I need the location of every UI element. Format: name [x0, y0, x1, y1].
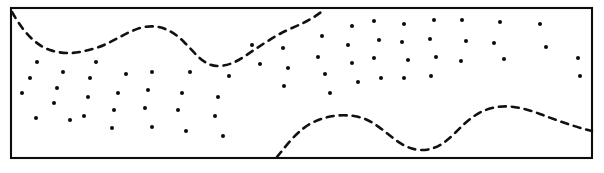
stipple-dot: [400, 40, 404, 44]
stipple-dot: [52, 101, 56, 105]
stipple-dot: [180, 91, 184, 95]
stipple-dot: [213, 114, 217, 118]
stipple-dot: [116, 91, 120, 95]
stipple-dot: [428, 37, 432, 41]
stipple-dot: [124, 72, 128, 76]
stipple-dot: [55, 86, 59, 90]
stipple-dot: [323, 72, 327, 76]
stipple-dot: [350, 24, 354, 28]
stipple-dot: [35, 60, 39, 64]
stipple-dot: [356, 80, 360, 84]
stipple-dot: [538, 22, 542, 26]
figure-canvas: [0, 0, 604, 173]
stipple-dot: [184, 129, 188, 133]
stipple-dot: [492, 41, 496, 45]
stipple-dot: [146, 88, 150, 92]
stipple-dot: [282, 84, 286, 88]
stipple-dot: [188, 70, 192, 74]
stipple-dot: [34, 116, 38, 120]
stipple-dot: [434, 55, 438, 59]
stipple-dot: [316, 55, 320, 59]
stipple-dot: [406, 58, 410, 62]
stipple-dot: [86, 95, 90, 99]
figure-background: [0, 0, 604, 173]
stipple-dot: [150, 125, 154, 129]
stipple-dot: [82, 114, 86, 118]
stipple-dot: [176, 108, 180, 112]
stipple-dot: [20, 91, 24, 95]
stipple-dot: [328, 91, 332, 95]
stipple-dot: [88, 76, 92, 80]
stipple-dot: [346, 43, 350, 47]
stipple-dot: [68, 118, 72, 122]
stipple-dot: [498, 20, 502, 24]
stipple-dot: [216, 95, 220, 99]
stipple-dot: [464, 39, 468, 43]
stipple-dot: [221, 134, 225, 138]
stipple-dot: [402, 76, 406, 80]
stipple-dot: [429, 74, 433, 78]
stipple-dot: [320, 34, 324, 38]
diagram-svg: [0, 0, 604, 173]
stipple-dot: [281, 46, 285, 50]
stipple-dot: [379, 76, 383, 80]
stipple-dot: [286, 66, 290, 70]
stipple-dot: [227, 74, 231, 78]
stipple-dot: [578, 74, 582, 78]
stipple-dot: [61, 70, 65, 74]
stipple-dot: [377, 38, 381, 42]
stipple-dot: [459, 59, 463, 63]
stipple-dot: [372, 56, 376, 60]
stipple-dot: [112, 108, 116, 112]
stipple-dot: [460, 18, 464, 22]
stipple-dot: [402, 22, 406, 26]
stipple-dot: [258, 62, 262, 66]
stipple-dot: [94, 60, 98, 64]
stipple-dot: [576, 56, 580, 60]
stipple-dot: [350, 61, 354, 65]
stipple-dot: [544, 45, 548, 49]
stipple-dot: [502, 57, 506, 61]
stipple-dot: [250, 43, 254, 47]
stipple-dot: [432, 18, 436, 22]
stipple-dot: [150, 70, 154, 74]
stipple-dot: [372, 19, 376, 23]
stipple-dot: [143, 106, 147, 110]
stipple-dot: [28, 76, 32, 80]
stipple-dot: [110, 126, 114, 130]
